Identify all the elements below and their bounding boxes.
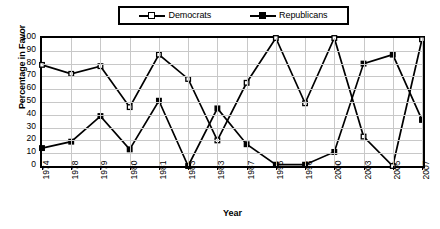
gridline-horizontal (42, 128, 423, 129)
x-axis-tick-label: 1979 (100, 153, 109, 187)
x-axis-tick-label: 1996 (305, 153, 314, 187)
gridline-vertical (217, 38, 218, 166)
plot-inner (42, 38, 423, 166)
legend-swatch-open-square-icon (139, 11, 165, 20)
gridline-vertical (71, 38, 72, 166)
gridline-horizontal (42, 102, 423, 103)
y-axis-tick-label: 70 (14, 70, 36, 79)
x-axis-tick-label: 2007 (422, 153, 431, 187)
y-axis-tick-label: 90 (14, 45, 36, 54)
gridline-horizontal (42, 76, 423, 77)
legend-entry-republicans: Republicans (250, 11, 327, 20)
x-axis-tick-label: 2005 (393, 153, 402, 187)
y-axis-tick-label: 30 (14, 121, 36, 130)
x-axis-tick-label: 1981 (159, 153, 168, 187)
line-chart-figure: Democrats Republicans Percentage in Favo… (0, 0, 440, 229)
y-axis-tick-label: 20 (14, 134, 36, 143)
gridline-horizontal (42, 89, 423, 90)
x-axis-title: Year (40, 208, 425, 218)
y-axis-tick-label: 40 (14, 109, 36, 118)
y-axis-tick-label: 10 (14, 147, 36, 156)
x-axis-tick-label: 1980 (130, 153, 139, 187)
plot-area (40, 36, 425, 168)
x-axis-tick-label: 2003 (364, 153, 373, 187)
y-axis-tick-labels: 1009080706050403020100 (14, 31, 36, 174)
y-axis-tick-label: 60 (14, 83, 36, 92)
gridline-vertical (276, 38, 277, 166)
gridline-vertical (100, 38, 101, 166)
x-axis-tick-label: 1983 (217, 153, 226, 187)
gridline-vertical (188, 38, 189, 166)
x-axis-tick-label: 1987 (247, 153, 256, 187)
legend-entry-democrats: Democrats (139, 11, 211, 20)
gridline-vertical (364, 38, 365, 166)
y-axis-tick-label: 100 (14, 32, 36, 41)
x-axis-tick-labels: 1974197819791980198119831983198719951996… (40, 170, 425, 206)
x-axis-tick-label: 1978 (71, 153, 80, 187)
legend-swatch-filled-square-icon (250, 11, 276, 20)
x-axis-tick-label: 1983 (188, 153, 197, 187)
legend-label-republicans: Republicans (279, 11, 327, 20)
data-point-marker-republicans (40, 146, 45, 151)
gridline-vertical (422, 38, 423, 166)
x-axis-tick-label: 2000 (334, 153, 343, 187)
gridline-vertical (305, 38, 306, 166)
chart-legend: Democrats Republicans (118, 6, 349, 25)
gridline-horizontal (42, 115, 423, 116)
y-axis-tick-label: 50 (14, 96, 36, 105)
gridline-vertical (334, 38, 335, 166)
y-axis-tick-label: 80 (14, 57, 36, 66)
gridline-horizontal (42, 140, 423, 141)
gridline-horizontal (42, 64, 423, 65)
x-axis-tick-label: 1995 (276, 153, 285, 187)
y-axis-tick-label: 0 (14, 160, 36, 169)
gridline-horizontal (42, 51, 423, 52)
gridline-vertical (159, 38, 160, 166)
gridline-vertical (130, 38, 131, 166)
gridline-vertical (393, 38, 394, 166)
gridline-vertical (247, 38, 248, 166)
legend-label-democrats: Democrats (168, 11, 211, 20)
x-axis-tick-label: 1974 (42, 153, 51, 187)
